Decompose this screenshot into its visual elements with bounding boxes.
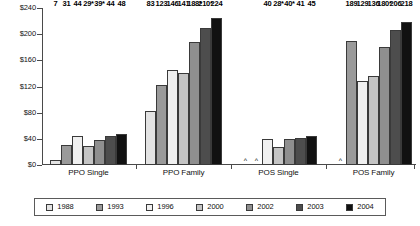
missing-data-marker: ^ bbox=[255, 157, 258, 164]
bar-slot: 29* bbox=[83, 8, 94, 165]
y-axis-label: $40 bbox=[0, 135, 36, 143]
bar-slot: 123 bbox=[156, 8, 167, 165]
bar: 180* bbox=[379, 47, 390, 165]
bar: 45 bbox=[306, 136, 317, 165]
legend-swatch-icon bbox=[146, 204, 153, 211]
chart-legend: 1988199319962000200220032004 bbox=[34, 198, 386, 216]
legend-label: 2003 bbox=[307, 203, 323, 211]
legend-item-2002[interactable]: 2002 bbox=[246, 203, 273, 211]
bar: 206 bbox=[390, 30, 401, 165]
bar-value-label: 28* bbox=[273, 0, 284, 8]
bar-slot: 188* bbox=[189, 8, 200, 165]
bar: 48 bbox=[116, 134, 127, 165]
bar: 28* bbox=[273, 147, 284, 165]
x-axis-group-separator-tick bbox=[326, 164, 327, 169]
x-axis-category-label: POS Single bbox=[240, 168, 317, 177]
bar-slot: 146 bbox=[167, 8, 178, 165]
legend-swatch-icon bbox=[346, 204, 353, 211]
bar-value-label: 29* bbox=[83, 0, 94, 8]
missing-data-marker: ^ bbox=[244, 157, 247, 164]
bar-slot: 40* bbox=[284, 8, 295, 165]
bar: 136 bbox=[368, 76, 379, 165]
bar: 218 bbox=[401, 22, 412, 165]
bar-value-label: 41 bbox=[297, 0, 305, 8]
bar: 41 bbox=[295, 138, 306, 165]
bar-group-bars: ^189129136180*206218 bbox=[335, 8, 412, 165]
bar-slot: ^ bbox=[240, 8, 251, 165]
bar-value-label: 48 bbox=[118, 0, 126, 8]
bar: 31 bbox=[61, 145, 72, 165]
bar-value-label: 83 bbox=[147, 0, 155, 8]
y-axis-label: $80 bbox=[0, 109, 36, 117]
bar-slot: 206 bbox=[390, 8, 401, 165]
bar: 224 bbox=[211, 18, 222, 165]
plot-area: 7314429*39*444883123146141188*210*224^^4… bbox=[42, 8, 416, 165]
bar: 44 bbox=[72, 136, 83, 165]
bar: 44 bbox=[105, 136, 116, 165]
bar-slot: 44 bbox=[72, 8, 83, 165]
bar-slot: 41 bbox=[295, 8, 306, 165]
legend-label: 2000 bbox=[207, 203, 223, 211]
bar-value-label: 31 bbox=[63, 0, 71, 8]
bar-slot: ^ bbox=[335, 8, 346, 165]
bar-value-label: 40* bbox=[284, 0, 295, 8]
bar-slot: 31 bbox=[61, 8, 72, 165]
bar-value-label: 40 bbox=[264, 0, 272, 8]
legend-label: 1988 bbox=[57, 203, 73, 211]
bar-group-bars: 83123146141188*210*224 bbox=[145, 8, 222, 165]
legend-item-2004[interactable]: 2004 bbox=[346, 203, 373, 211]
bar-value-label: 218 bbox=[401, 0, 413, 8]
y-axis-label: $200 bbox=[0, 31, 36, 39]
bar-slot: 28* bbox=[273, 8, 284, 165]
bar-value-label: 224 bbox=[211, 0, 223, 8]
bar-slot: 48 bbox=[116, 8, 127, 165]
bar: 123 bbox=[156, 85, 167, 165]
bar-slot: 83 bbox=[145, 8, 156, 165]
bar-value-label: 44 bbox=[74, 0, 82, 8]
bar-slot: 129 bbox=[357, 8, 368, 165]
bar: 29* bbox=[83, 146, 94, 165]
y-axis-label: $120 bbox=[0, 83, 36, 91]
bar: 141 bbox=[178, 73, 189, 165]
missing-data-marker: ^ bbox=[339, 157, 342, 164]
bar-slot: 141 bbox=[178, 8, 189, 165]
bar-chart: $0$40$80$120$160$200$240 7314429*39*4448… bbox=[0, 0, 420, 226]
y-axis-label: $240 bbox=[0, 4, 36, 11]
bar-slot: 7 bbox=[50, 8, 61, 165]
legend-swatch-icon bbox=[296, 204, 303, 211]
legend-label: 1996 bbox=[157, 203, 173, 211]
legend-swatch-icon bbox=[46, 204, 53, 211]
bar-slot: ^ bbox=[251, 8, 262, 165]
legend-label: 2004 bbox=[357, 203, 373, 211]
legend-label: 1993 bbox=[107, 203, 123, 211]
bar-slot: 45 bbox=[306, 8, 317, 165]
bar-group-bars: ^^4028*40*4145 bbox=[240, 8, 317, 165]
x-axis-category-label: PPO Single bbox=[50, 168, 127, 177]
bar-slot: 136 bbox=[368, 8, 379, 165]
bar-value-label: 39* bbox=[94, 0, 105, 8]
bar: 40* bbox=[284, 139, 295, 165]
bar: 40 bbox=[262, 139, 273, 165]
bar-slot: 218 bbox=[401, 8, 412, 165]
bar-slot: 180* bbox=[379, 8, 390, 165]
bar-slot: 39* bbox=[94, 8, 105, 165]
bar-slot: 210* bbox=[200, 8, 211, 165]
bar-slot: 224 bbox=[211, 8, 222, 165]
bar: 189 bbox=[346, 41, 357, 165]
legend-label: 2002 bbox=[257, 203, 273, 211]
legend-item-2003[interactable]: 2003 bbox=[296, 203, 323, 211]
legend-item-1988[interactable]: 1988 bbox=[46, 203, 73, 211]
bar-slot: 189 bbox=[346, 8, 357, 165]
legend-item-1996[interactable]: 1996 bbox=[146, 203, 173, 211]
legend-item-1993[interactable]: 1993 bbox=[96, 203, 123, 211]
bar: 39* bbox=[94, 140, 105, 166]
bar-value-label: 44 bbox=[107, 0, 115, 8]
bar: 129 bbox=[357, 81, 368, 165]
x-axis-category-label: POS Family bbox=[335, 168, 412, 177]
bar-value-label: 7 bbox=[54, 0, 58, 8]
bar-slot: 40 bbox=[262, 8, 273, 165]
bar: 83 bbox=[145, 111, 156, 165]
legend-item-2000[interactable]: 2000 bbox=[196, 203, 223, 211]
y-axis-label: $0 bbox=[0, 161, 36, 169]
x-axis-group-separator-tick bbox=[231, 164, 232, 169]
